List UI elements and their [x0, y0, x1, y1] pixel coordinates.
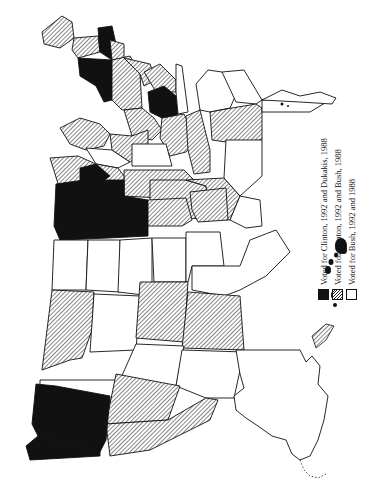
legend-item-clinton-bush: Voted for Clinton, 1992 and Bush, 1988 — [332, 150, 343, 300]
state-colorado — [136, 282, 188, 342]
state-vermont — [110, 40, 124, 60]
northeast-region — [42, 16, 188, 120]
state-iowa-south — [86, 240, 120, 292]
state-new-mexico — [182, 292, 244, 350]
state-arizona — [176, 350, 244, 398]
state-arkansas — [190, 188, 228, 222]
state-south-dakota — [90, 294, 140, 352]
state-new-york — [78, 58, 112, 102]
hatched-swatch-icon — [332, 289, 343, 300]
state-maine — [42, 16, 74, 48]
aleutian-islands — [300, 460, 326, 478]
state-north-dakota — [42, 290, 94, 370]
legend-label: Voted for Clinton, 1992 and Dukakis, 198… — [319, 138, 329, 285]
legend-rotated: Voted for Clinton, 1992 and Dukakis, 198… — [318, 150, 360, 300]
island-marker — [281, 103, 284, 106]
state-virginia — [186, 110, 210, 174]
state-alaska — [234, 350, 328, 460]
state-minnesota — [52, 240, 88, 290]
black-swatch-icon — [318, 289, 329, 300]
state-missouri — [148, 198, 192, 226]
legend-label: Voted for Bush, 1992 and 1988 — [347, 179, 357, 285]
state-michigan-upper — [60, 118, 110, 150]
legend: Voted for Clinton, 1992 and Dukakis, 198… — [318, 150, 377, 300]
state-indiana — [132, 144, 172, 166]
state-kansas — [152, 238, 186, 282]
island-marker — [287, 105, 289, 107]
alaska-panhandle-islands — [312, 324, 334, 348]
state-delaware — [176, 64, 188, 114]
legend-item-bush-bush: Voted for Bush, 1992 and 1988 — [346, 150, 357, 300]
white-swatch-icon — [346, 289, 357, 300]
legend-item-clinton-dukakis: Voted for Clinton, 1992 and Dukakis, 198… — [318, 150, 329, 300]
state-new-hampshire — [72, 36, 100, 58]
legend-label: Voted for Clinton, 1992 and Bush, 1988 — [333, 149, 343, 285]
